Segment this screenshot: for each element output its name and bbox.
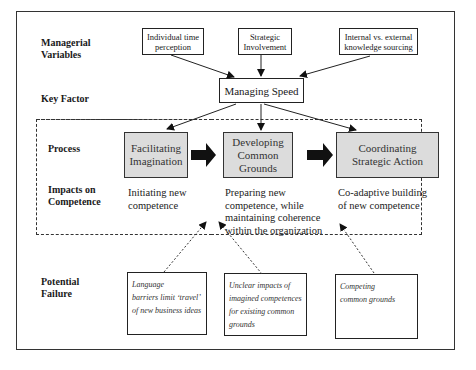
- arrow-speed-to-coordinating: [264, 104, 356, 130]
- arrow-failure3-up: [340, 224, 374, 273]
- arrow-sourcing-to-speed: [300, 56, 370, 76]
- connector-arrows: [0, 0, 476, 370]
- arrow-failure1-up: [164, 222, 206, 272]
- block-arrow-2: [307, 143, 333, 167]
- block-arrow-1: [191, 143, 216, 167]
- arrow-failure2-up: [219, 222, 262, 274]
- arrow-time-to-speed: [171, 55, 234, 77]
- arrow-speed-to-facilitating: [167, 104, 236, 129]
